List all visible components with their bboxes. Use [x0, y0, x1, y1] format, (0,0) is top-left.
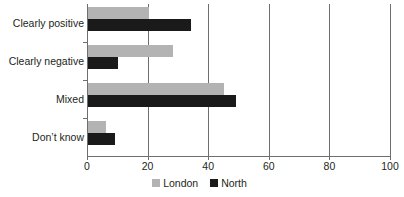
x-tick-label: 100	[375, 160, 404, 172]
gridline-100	[390, 4, 391, 156]
x-tick-label: 40	[193, 160, 223, 172]
category-label: Mixed	[2, 93, 84, 105]
legend-item-london[interactable]: London	[152, 177, 198, 189]
category-axis-labels: Clearly positiveClearly negativeMixedDon…	[0, 4, 84, 156]
category-label: Don’t know	[2, 131, 84, 143]
chart-legend: LondonNorth	[0, 177, 399, 189]
x-tick-label: 0	[72, 160, 102, 172]
legend-label: London	[163, 177, 198, 189]
legend-item-north[interactable]: North	[210, 177, 247, 189]
x-tick-label: 20	[133, 160, 163, 172]
legend-label: North	[221, 177, 247, 189]
x-tick-label: 60	[254, 160, 284, 172]
x-tick-label: 80	[314, 160, 344, 172]
category-label: Clearly negative	[2, 55, 84, 67]
x-axis-tick-labels: 020406080100	[87, 0, 390, 197]
legend-swatch-icon	[152, 179, 160, 187]
legend-swatch-icon	[210, 179, 218, 187]
category-label: Clearly positive	[2, 17, 84, 29]
